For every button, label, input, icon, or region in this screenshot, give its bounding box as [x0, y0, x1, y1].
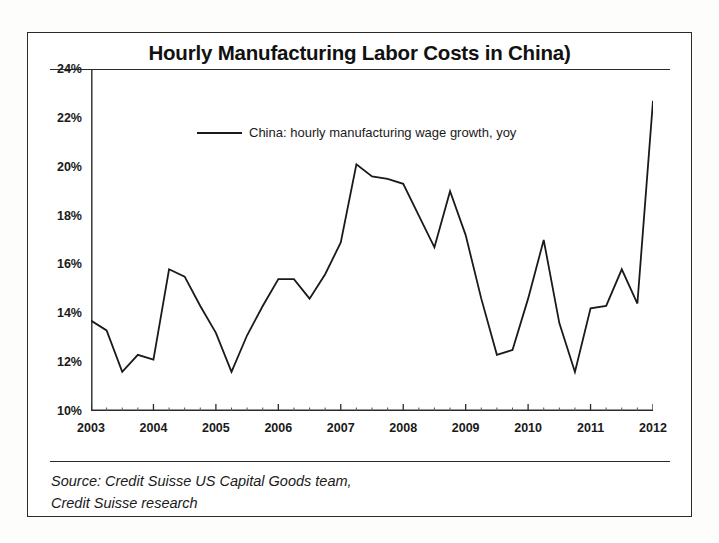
x-tick-label-2005: 2005 — [202, 421, 230, 435]
x-tick-label-2008: 2008 — [389, 421, 417, 435]
y-tick-label-10: 10% — [57, 404, 82, 418]
chart-legend: China: hourly manufacturing wage growth,… — [197, 125, 516, 140]
chart-title: Hourly Manufacturing Labor Costs in Chin… — [28, 41, 691, 65]
x-tick-label-2007: 2007 — [327, 421, 355, 435]
source-note: Source: Credit Suisse US Capital Goods t… — [51, 470, 352, 515]
x-tick-label-2012: 2012 — [639, 421, 667, 435]
plot-area: 10%12%14%16%18%20%22%24% 200320042005200… — [91, 69, 653, 411]
source-divider-rule — [50, 461, 670, 462]
chart-figure-frame: Hourly Manufacturing Labor Costs in Chin… — [27, 32, 692, 517]
legend-label-china-wage-growth: China: hourly manufacturing wage growth,… — [249, 125, 516, 140]
x-tick-label-2003: 2003 — [77, 421, 105, 435]
x-tick-label-2009: 2009 — [452, 421, 480, 435]
series-line-0 — [91, 101, 653, 372]
legend-line-swatch — [197, 132, 242, 134]
chart-plot-svg — [91, 69, 653, 411]
x-tick-label-2004: 2004 — [140, 421, 168, 435]
axis-lines — [91, 69, 653, 411]
x-tick-label-2006: 2006 — [264, 421, 292, 435]
y-tick-label-12: 12% — [57, 355, 82, 369]
source-line-1: Source: Credit Suisse US Capital Goods t… — [51, 470, 352, 492]
y-tick-label-24: 24% — [57, 62, 82, 76]
y-tick-label-18: 18% — [57, 209, 82, 223]
y-tick-label-22: 22% — [57, 111, 82, 125]
y-tick-label-16: 16% — [57, 257, 82, 271]
data-series-group — [91, 101, 653, 372]
y-tick-label-14: 14% — [57, 306, 82, 320]
x-tick-label-2010: 2010 — [514, 421, 542, 435]
scanned-page-background: Hourly Manufacturing Labor Costs in Chin… — [0, 0, 719, 543]
x-tick-label-2011: 2011 — [577, 421, 604, 435]
y-tick-label-20: 20% — [57, 160, 82, 174]
source-line-2: Credit Suisse research — [51, 492, 352, 514]
